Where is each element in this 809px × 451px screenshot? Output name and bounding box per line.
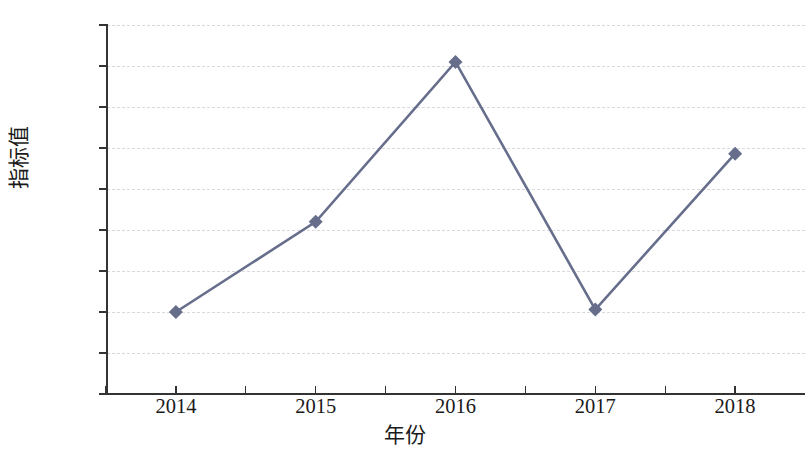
x-axis-title: 年份 <box>0 418 809 448</box>
gridline <box>107 189 805 190</box>
data-point-marker <box>309 215 323 229</box>
x-tick-label: 2018 <box>665 396 805 417</box>
gridline <box>107 148 805 149</box>
x-tick-label: 2015 <box>246 396 386 417</box>
x-tick-label: 2014 <box>106 396 246 417</box>
gridline <box>107 312 805 313</box>
x-tick-label: 2017 <box>525 396 665 417</box>
line-chart-figure: 指标值 年份 9999.5100100.5101101.5102102.5103… <box>0 0 809 451</box>
gridline <box>107 107 805 108</box>
gridline <box>107 25 805 26</box>
gridline <box>107 271 805 272</box>
y-axis-title: 指标值 <box>7 97 31 217</box>
gridline <box>107 353 805 354</box>
gridline <box>107 230 805 231</box>
x-axis-spine <box>106 393 805 395</box>
data-series-layer <box>0 0 809 451</box>
data-point-marker <box>588 303 602 317</box>
x-tick-label: 2016 <box>386 396 526 417</box>
y-axis-spine <box>106 24 108 395</box>
series-markers <box>169 55 742 319</box>
gridline <box>107 66 805 67</box>
series-line <box>176 62 735 312</box>
